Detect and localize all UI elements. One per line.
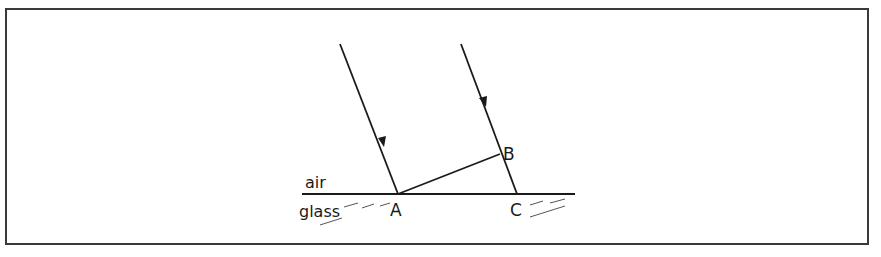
point-a-label: A bbox=[390, 200, 402, 220]
refraction-diagram: air glass A B C bbox=[0, 0, 881, 257]
left-incident-ray bbox=[340, 44, 398, 194]
point-b-label: B bbox=[503, 144, 515, 164]
wavefront-ab bbox=[398, 154, 500, 194]
air-label: air bbox=[305, 173, 326, 192]
glass-hatching bbox=[320, 199, 565, 225]
point-c-label: C bbox=[510, 200, 522, 220]
right-incident-ray bbox=[461, 44, 517, 194]
glass-label: glass bbox=[299, 202, 340, 221]
